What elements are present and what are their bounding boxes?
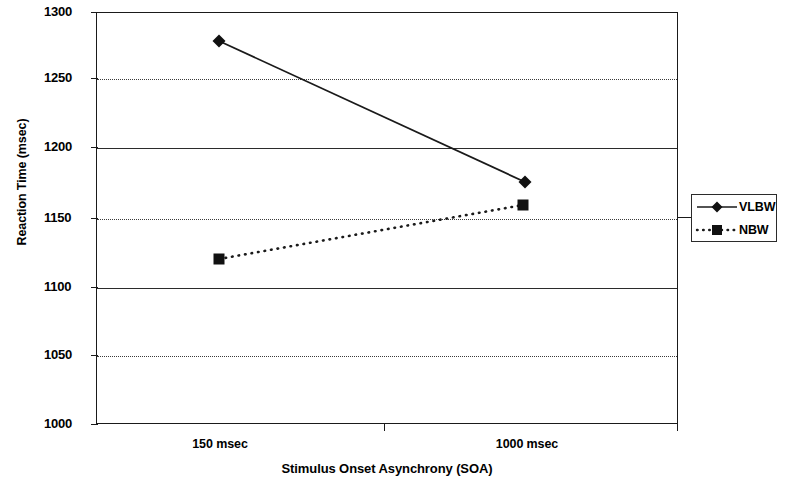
legend-entry-nbw: NBW xyxy=(692,218,776,242)
ytick-label-1100: 1100 xyxy=(44,279,92,294)
ytick-mark-1300 xyxy=(91,12,98,13)
xtick-mark-middle xyxy=(384,424,385,431)
ytick-label-1050: 1050 xyxy=(44,347,92,362)
gridline-1250 xyxy=(97,79,677,80)
x-axis-title: Stimulus Onset Asynchrony (SOA) xyxy=(96,461,678,476)
legend: VLBW NBW xyxy=(691,194,777,242)
ytick-mark-1100 xyxy=(91,287,98,288)
ytick-mark-1250 xyxy=(91,78,98,79)
ytick-mark-1150 xyxy=(91,218,98,219)
ytick-label-1150: 1150 xyxy=(44,210,92,225)
legend-label-vlbw: VLBW xyxy=(739,200,775,214)
chart-figure: 1300 1250 1200 1150 1100 1050 1000 React… xyxy=(0,0,786,479)
ytick-mark-1000 xyxy=(91,424,98,425)
xtick-label-1000msec: 1000 msec xyxy=(496,437,558,451)
plot-area xyxy=(96,12,678,424)
legend-connector xyxy=(678,217,691,218)
gridline-1100 xyxy=(97,288,677,289)
xtick-mark-right xyxy=(677,424,678,431)
gridline-1150 xyxy=(97,219,677,220)
xtick-label-150msec: 150 msec xyxy=(192,437,248,451)
legend-key-nbw xyxy=(695,223,739,237)
legend-key-vlbw xyxy=(695,200,739,214)
ytick-mark-1200 xyxy=(91,147,98,148)
gridline-1200 xyxy=(97,148,677,149)
gridline-1050 xyxy=(97,356,677,357)
ytick-label-1200: 1200 xyxy=(44,139,92,154)
y-axis-title: Reaction Time (msec) xyxy=(15,82,29,282)
ytick-label-1250: 1250 xyxy=(44,70,92,85)
legend-label-nbw: NBW xyxy=(739,223,769,237)
ytick-mark-1050 xyxy=(91,355,98,356)
ytick-label-1300: 1300 xyxy=(44,4,92,19)
legend-entry-vlbw: VLBW xyxy=(692,195,776,219)
ytick-label-1000: 1000 xyxy=(44,416,92,431)
